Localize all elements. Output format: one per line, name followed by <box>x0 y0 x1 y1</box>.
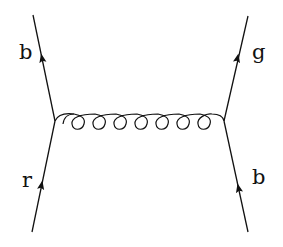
feynman-diagram: b r g b <box>0 0 283 247</box>
label-incoming-left: r <box>22 170 32 191</box>
outgoing-quark-left <box>33 15 55 121</box>
incoming-quark-right <box>224 121 248 232</box>
label-outgoing-right: g <box>252 42 265 63</box>
outgoing-quark-right <box>224 16 248 121</box>
arrow-icon <box>233 58 238 78</box>
label-outgoing-left: b <box>19 42 32 63</box>
label-incoming-right: b <box>252 167 265 188</box>
gluon-line <box>55 114 210 130</box>
diagram-lines <box>0 0 283 247</box>
incoming-quark-left <box>32 121 55 232</box>
gluon-line-end <box>198 114 224 124</box>
